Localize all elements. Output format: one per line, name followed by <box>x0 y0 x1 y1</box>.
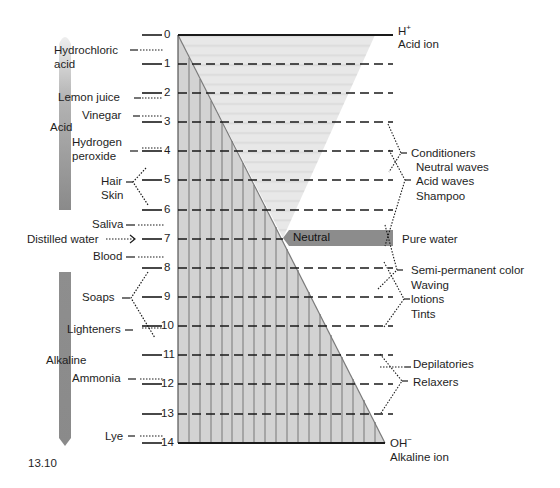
label-soaps: Soaps <box>82 291 115 304</box>
label-vinegar: Vinegar <box>82 109 121 122</box>
label-peroxide: peroxide <box>72 150 116 163</box>
label-distilled-water: Distilled water <box>27 233 99 246</box>
label-waving: Waving <box>411 279 449 292</box>
ph-tick-11: 11 <box>163 348 175 361</box>
label-semi-permanent-color: Semi-permanent color <box>411 264 524 277</box>
ph-tick-6: 6 <box>164 203 170 216</box>
label-shampoo: Shampoo <box>416 190 465 203</box>
product-pointers <box>397 153 411 381</box>
label-tints: Tints <box>411 308 436 321</box>
scale-ticks <box>142 35 162 443</box>
ph-tick-12: 12 <box>161 377 174 390</box>
h-plus-label: H+ <box>398 25 411 38</box>
ph-tick-3: 3 <box>164 115 170 128</box>
acid-ion-label: Acid ion <box>398 38 439 51</box>
substance-pointers <box>122 50 141 436</box>
ph-scale-diagram: 0 1 2 3 4 5 6 7 8 9 10 11 12 13 14 Hydro… <box>0 0 560 488</box>
acid-bar-label: Acid <box>50 121 72 134</box>
label-skin: Skin <box>101 189 123 202</box>
ph-tick-14: 14 <box>161 436 174 449</box>
substance-dotted-leaders <box>131 50 164 436</box>
label-ammonia: Ammonia <box>72 372 121 385</box>
ph-tick-5: 5 <box>164 173 170 186</box>
alkaline-bar-label: Alkaline <box>46 354 86 367</box>
label-lotions: lotions <box>411 293 444 306</box>
label-acid-waves: Acid waves <box>416 175 474 188</box>
label-hydrochloric-acid: acid <box>54 58 75 71</box>
ph-tick-13: 13 <box>161 407 174 420</box>
label-blood: Blood <box>93 250 122 263</box>
figure-number: 13.10 <box>28 457 57 470</box>
ph-tick-7: 7 <box>164 232 170 245</box>
ph-tick-2: 2 <box>164 86 170 99</box>
label-neutral-waves: Neutral waves <box>416 161 489 174</box>
ph-tick-4: 4 <box>164 144 170 157</box>
ph-tick-1: 1 <box>164 57 170 70</box>
label-lemon-juice: Lemon juice <box>58 91 120 104</box>
ph-tick-8: 8 <box>164 261 170 274</box>
alkaline-ion-label: Alkaline ion <box>390 451 449 464</box>
ph-tick-10: 10 <box>161 319 174 332</box>
label-saliva: Saliva <box>92 218 123 231</box>
ph-tick-0: 0 <box>164 28 170 41</box>
label-conditioners: Conditioners <box>411 147 476 160</box>
oh-minus-label: OH− <box>390 437 412 450</box>
label-hydrochloric: Hydrochloric <box>54 44 118 57</box>
label-hair: Hair <box>101 175 122 188</box>
label-lighteners: Lighteners <box>67 323 121 336</box>
distilled-water-arrow <box>106 235 135 243</box>
ph-tick-9: 9 <box>164 290 170 303</box>
label-pure-water: Pure water <box>402 233 458 246</box>
label-lye: Lye <box>105 430 123 443</box>
label-hydrogen: Hydrogen <box>72 136 122 149</box>
label-relaxers: Relaxers <box>413 376 458 389</box>
label-depilatories: Depilatories <box>413 358 474 371</box>
neutral-label: Neutral <box>293 231 330 244</box>
